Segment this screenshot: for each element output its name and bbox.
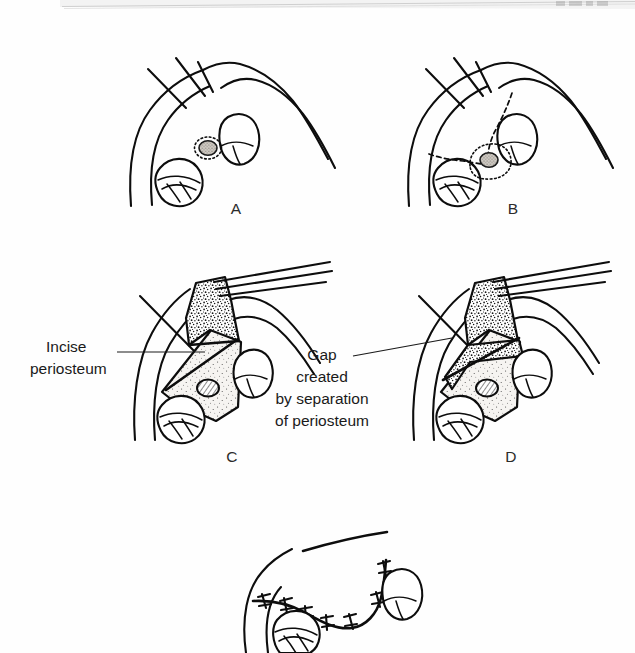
panel-b-illustration: B bbox=[408, 58, 613, 217]
panel-label-d: D bbox=[505, 448, 517, 465]
incise-periosteum-line-2: periosteum bbox=[30, 360, 107, 377]
panel-e-illustration bbox=[244, 532, 422, 653]
gap-created-line-3: by separation bbox=[275, 390, 368, 407]
panel-label-a: A bbox=[231, 200, 242, 217]
incise-periosteum-line-1: Incise bbox=[46, 338, 87, 355]
gap-created-line-4: of periosteum bbox=[275, 412, 369, 429]
nerve-bundle-b bbox=[480, 153, 498, 167]
suture-line-e bbox=[253, 560, 386, 628]
surgical-illustration-plate: A B bbox=[0, 0, 635, 653]
tooth-left-c bbox=[157, 396, 204, 443]
figure-root: A B bbox=[0, 0, 635, 653]
tooth-right-e bbox=[382, 569, 422, 620]
annotation-gap-created: Gap created by separation of periosteum bbox=[275, 338, 452, 429]
panel-label-b: B bbox=[508, 200, 519, 217]
gap-created-line-2: created bbox=[296, 368, 348, 385]
panel-c-illustration: C bbox=[134, 262, 332, 465]
panel-d-illustration: D bbox=[413, 262, 611, 465]
nerve-bundle-d bbox=[476, 379, 498, 396]
panel-a-illustration: A bbox=[130, 58, 335, 217]
scan-artifact-band bbox=[60, 0, 635, 9]
nerve-bundle-a bbox=[199, 141, 217, 155]
nerve-bundle-c bbox=[197, 379, 219, 396]
panel-label-c: C bbox=[226, 448, 238, 465]
gap-created-leader-line bbox=[353, 338, 452, 356]
tooth-left-d bbox=[436, 396, 483, 443]
gap-created-line-1: Gap bbox=[307, 346, 336, 363]
tooth-right-d bbox=[512, 350, 551, 398]
tooth-right-c bbox=[233, 350, 272, 398]
tooth-left-e bbox=[273, 611, 320, 653]
